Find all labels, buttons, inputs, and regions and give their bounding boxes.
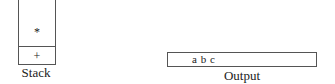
output-label: Output <box>167 68 317 84</box>
stack-container: * + <box>18 0 56 65</box>
stack-label: Stack <box>10 65 62 81</box>
output-value: a b c <box>192 53 215 66</box>
output-box: a b c <box>167 52 317 67</box>
stack-item-bottom: + <box>19 46 55 65</box>
stack-item-top: * <box>19 24 55 40</box>
